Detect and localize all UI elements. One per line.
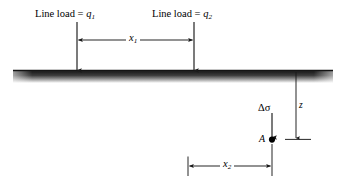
line-load-2-prefix: Line load = bbox=[152, 8, 203, 19]
line-load-2-subscript: 2 bbox=[208, 13, 212, 21]
label-point-a: A bbox=[259, 134, 265, 144]
ground-surface bbox=[13, 70, 333, 83]
label-dimension-x2: x2 bbox=[220, 159, 234, 171]
point-a-marker bbox=[269, 137, 275, 143]
figure-canvas: Line load = q1 Line load = q2 x1 Δσ z A … bbox=[0, 0, 348, 182]
diagram-vector-layer bbox=[0, 0, 348, 182]
label-line-load-2: Line load = q2 bbox=[152, 9, 212, 21]
line-load-1-subscript: 1 bbox=[91, 13, 95, 21]
label-delta-sigma: Δσ bbox=[258, 103, 270, 114]
label-line-load-1: Line load = q1 bbox=[35, 9, 95, 21]
line-load-1-prefix: Line load = bbox=[35, 8, 86, 19]
dimension-x1-subscript: 1 bbox=[134, 37, 138, 45]
label-dimension-x1: x1 bbox=[126, 33, 140, 45]
label-depth-z: z bbox=[299, 101, 303, 111]
dimension-x2-subscript: 2 bbox=[228, 163, 232, 171]
